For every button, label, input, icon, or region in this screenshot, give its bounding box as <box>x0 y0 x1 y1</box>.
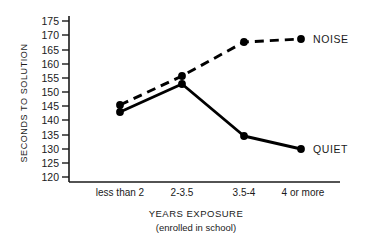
x-axis-tick-labels: less than 2 2-3.5 3.5-4 4 or more <box>96 187 325 198</box>
x-tick-label: 4 or more <box>282 187 325 198</box>
y-tick-label: 165 <box>41 44 59 56</box>
line-chart: SECONDS TO SOLUTION 175 170 165 160 155 <box>0 0 378 250</box>
x-axis-subtitle: (enrolled in school) <box>156 222 236 233</box>
series-label-quiet: QUIET <box>313 143 348 155</box>
y-axis-title: SECONDS TO SOLUTION <box>19 43 29 162</box>
chart-container: SECONDS TO SOLUTION 175 170 165 160 155 <box>0 0 378 250</box>
series-quiet-line <box>120 84 301 149</box>
data-point-quiet <box>178 80 186 88</box>
data-point-quiet <box>116 108 124 116</box>
y-tick-label: 135 <box>41 129 59 141</box>
data-point-noise <box>116 101 124 109</box>
x-tick-label: 2-3.5 <box>171 187 194 198</box>
data-point-noise <box>178 72 186 80</box>
y-tick-label: 125 <box>41 157 59 169</box>
y-tick-label: 170 <box>41 29 59 41</box>
y-tick-label: 155 <box>41 72 59 84</box>
data-point-quiet <box>240 132 248 140</box>
y-tick-label: 145 <box>41 100 59 112</box>
data-point-noise <box>240 38 248 46</box>
y-axis-ticks <box>62 21 69 177</box>
series-noise-line <box>120 39 301 105</box>
y-tick-label: 130 <box>41 143 59 155</box>
y-axis-tick-labels: 175 170 165 160 155 150 145 140 135 130 … <box>41 15 59 183</box>
series-label-noise: NOISE <box>313 33 349 45</box>
x-axis-title: YEARS EXPOSURE <box>149 208 244 219</box>
y-tick-label: 160 <box>41 58 59 70</box>
x-tick-label: 3.5-4 <box>233 187 256 198</box>
y-tick-label: 120 <box>41 171 59 183</box>
data-point-quiet <box>297 145 305 153</box>
y-tick-label: 140 <box>41 114 59 126</box>
y-tick-label: 150 <box>41 86 59 98</box>
y-tick-label: 175 <box>41 15 59 27</box>
data-point-noise <box>297 35 305 43</box>
x-tick-label: less than 2 <box>96 187 145 198</box>
